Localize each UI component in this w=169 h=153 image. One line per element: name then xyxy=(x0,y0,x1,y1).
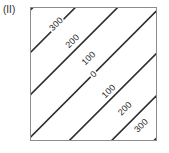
contour-label-300-6: 300300 xyxy=(132,117,150,135)
contour-plot-area: 30030020020010010000100100200200300300 xyxy=(31,8,156,140)
contour-label-100-4: 100100 xyxy=(100,82,118,100)
contour-label-100-2: 100100 xyxy=(80,49,98,67)
contour-label-value: 300 xyxy=(47,15,65,33)
panel-label: (II) xyxy=(3,4,15,16)
contour-label-value: 100 xyxy=(100,82,118,100)
contour-label-200-5: 200200 xyxy=(116,99,134,117)
contour-figure: (II) 30030020020010010000100100200200300… xyxy=(0,0,169,153)
contour-label-value: 100 xyxy=(80,49,98,67)
contour-label-300-0: 300300 xyxy=(47,15,65,33)
contour-label-value: 300 xyxy=(132,117,150,135)
contour-label-value: 200 xyxy=(116,99,134,117)
plot-frame: 30030020020010010000100100200200300300 xyxy=(30,7,157,141)
